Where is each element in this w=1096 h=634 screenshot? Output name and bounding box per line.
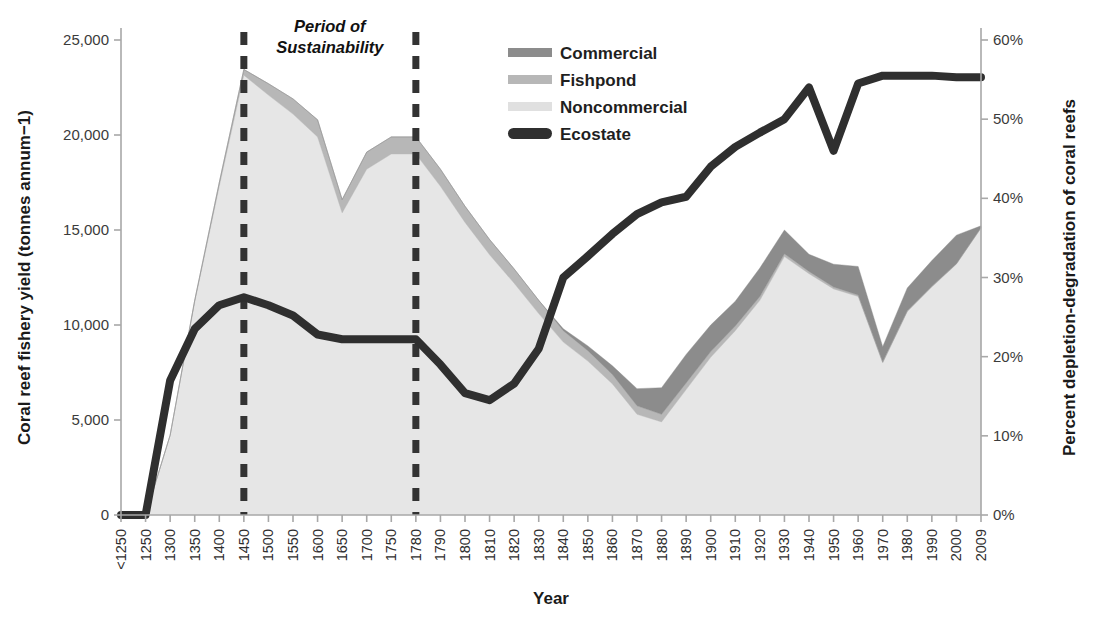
y-tick-label-right: 30%: [993, 269, 1023, 286]
x-tick-label: 1500: [260, 529, 276, 561]
x-tick-label: 1890: [678, 529, 694, 561]
legend-swatch-commercial: [508, 48, 552, 57]
x-tick-label: 1830: [531, 529, 547, 561]
x-tick-label: 1750: [383, 529, 399, 561]
x-tick-label: 1780: [408, 529, 424, 561]
y-tick-label-left: 0: [101, 506, 109, 523]
y-tick-label-left: 20,000: [63, 126, 109, 143]
x-tick-label: 1790: [432, 529, 448, 561]
x-tick-label: 1300: [162, 529, 178, 561]
x-tick-label: 1550: [285, 529, 301, 561]
x-tick-label: <1250: [113, 529, 129, 570]
x-tick-label: 1990: [924, 529, 940, 561]
legend-swatch-fishpond: [508, 75, 552, 84]
x-tick-label: 1920: [752, 529, 768, 561]
annotation-line-2: Sustainability: [276, 38, 384, 56]
coral-reef-fishery-chart: Period ofSustainability 05,00010,00015,0…: [0, 0, 1096, 634]
y-tick-label-left: 25,000: [63, 31, 109, 48]
x-axis-title: Year: [533, 589, 569, 608]
x-tick-label: 1350: [187, 529, 203, 561]
x-tick-label: 1940: [801, 529, 817, 561]
annotation-line-1: Period of: [294, 17, 367, 35]
x-tick-label: 1400: [211, 529, 227, 561]
y-tick-label-right: 40%: [993, 189, 1023, 206]
chart-figure: Period ofSustainability 05,00010,00015,0…: [0, 0, 1096, 634]
x-tick-label: 1850: [580, 529, 596, 561]
x-tick-label: 1860: [604, 529, 620, 561]
y-tick-label-left: 5,000: [71, 411, 109, 428]
x-tick-label: 1980: [899, 529, 915, 561]
x-tick-label: 1810: [482, 529, 498, 561]
x-tick-label: 1650: [334, 529, 350, 561]
x-tick-label: 1450: [236, 529, 252, 561]
x-tick-label: 1900: [703, 529, 719, 561]
x-tick-label: 1820: [506, 529, 522, 561]
x-tick-label: 1960: [850, 529, 866, 561]
x-tick-label: 1600: [310, 529, 326, 561]
x-tick-label: 1870: [629, 529, 645, 561]
y-tick-label-right: 50%: [993, 110, 1023, 127]
y-tick-label-right: 10%: [993, 427, 1023, 444]
y-tick-label-right: 0%: [993, 506, 1015, 523]
x-tick-label: 1970: [875, 529, 891, 561]
y-tick-label-left: 15,000: [63, 221, 109, 238]
x-tick-label: 1840: [555, 529, 571, 561]
x-tick-label: 1910: [727, 529, 743, 561]
legend-label-ecostate: Ecostate: [560, 125, 631, 144]
x-tick-label: 1250: [138, 529, 154, 561]
x-tick-label: 1880: [654, 529, 670, 561]
y-axis-left-title: Coral reef fishery yield (tonnes annum−1…: [15, 110, 34, 445]
legend-label-fishpond: Fishpond: [560, 71, 636, 90]
y-tick-label-right: 60%: [993, 31, 1023, 48]
x-tick-label: 2000: [948, 529, 964, 561]
legend-swatch-ecostate: [508, 128, 552, 139]
legend-swatch-noncommercial: [508, 102, 552, 111]
x-tick-label: 1950: [826, 529, 842, 561]
x-tick-label: 1700: [359, 529, 375, 561]
legend-label-noncommercial: Noncommercial: [560, 98, 688, 117]
x-tick-label: 1930: [776, 529, 792, 561]
y-tick-label-left: 10,000: [63, 316, 109, 333]
x-tick-label: 1800: [457, 529, 473, 561]
y-axis-right-title: Percent depletion-degradation of coral r…: [1060, 99, 1079, 456]
y-tick-label-right: 20%: [993, 348, 1023, 365]
x-tick-label: 2009: [973, 529, 989, 561]
legend-label-commercial: Commercial: [560, 44, 657, 63]
